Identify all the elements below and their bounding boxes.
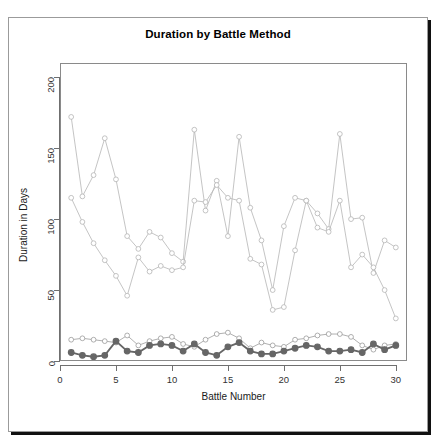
data-point — [359, 350, 365, 356]
data-point — [80, 336, 85, 341]
data-point — [102, 136, 107, 141]
data-point — [203, 337, 208, 342]
data-point — [226, 330, 231, 335]
data-point — [326, 332, 331, 337]
y-tick-label: 150 — [46, 148, 57, 164]
series-method-d-lower-filled — [68, 338, 398, 359]
x-tick-mark — [228, 365, 229, 371]
data-point — [147, 269, 152, 274]
x-tick-mark — [396, 365, 397, 371]
data-point — [292, 345, 298, 351]
data-point — [337, 332, 342, 337]
data-point — [170, 334, 175, 339]
data-point — [180, 348, 186, 354]
data-point — [348, 347, 354, 353]
data-point — [80, 353, 86, 359]
data-point — [315, 225, 320, 230]
data-point — [304, 198, 309, 203]
data-point — [237, 134, 242, 139]
data-point — [203, 208, 208, 213]
x-tick-mark — [284, 365, 285, 371]
data-point — [113, 338, 119, 344]
data-point — [371, 347, 376, 352]
x-tick-label: 15 — [223, 374, 234, 385]
series-line — [71, 185, 396, 318]
data-point — [360, 343, 365, 348]
figure-frame: Duration by Battle Method Duration in Da… — [8, 17, 428, 432]
data-point — [293, 195, 298, 200]
data-point — [382, 288, 387, 293]
x-axis-title: Battle Number — [202, 391, 266, 402]
data-point — [136, 247, 141, 252]
data-point — [68, 350, 74, 356]
data-point — [315, 211, 320, 216]
x-tick-label: 25 — [335, 374, 346, 385]
data-point — [169, 343, 175, 349]
data-point — [281, 224, 286, 229]
data-point — [80, 194, 85, 199]
data-point — [315, 333, 320, 338]
data-point — [371, 341, 377, 347]
data-point — [214, 183, 219, 188]
data-point — [326, 229, 331, 234]
data-point — [226, 234, 231, 239]
y-tick-label: 50 — [46, 290, 57, 301]
data-point — [158, 336, 163, 341]
data-point — [181, 342, 186, 347]
data-point — [102, 353, 108, 359]
data-point — [226, 195, 231, 200]
series-line — [71, 333, 396, 350]
data-point — [136, 350, 142, 356]
data-point — [337, 348, 343, 354]
data-point — [136, 343, 141, 348]
data-point — [181, 265, 186, 270]
data-point — [393, 245, 398, 250]
data-point — [393, 316, 398, 321]
chart-title: Duration by Battle Method — [9, 28, 427, 40]
data-point — [225, 344, 231, 350]
data-point — [91, 337, 96, 342]
data-point — [114, 177, 119, 182]
data-point — [192, 341, 198, 347]
x-tick-mark — [116, 365, 117, 371]
data-point — [136, 255, 141, 260]
data-point — [69, 337, 74, 342]
data-point — [236, 340, 242, 346]
data-point — [270, 343, 275, 348]
data-point — [371, 265, 376, 270]
data-point — [237, 198, 242, 203]
data-point — [91, 241, 96, 246]
data-point — [125, 234, 130, 239]
x-tick-label: 5 — [113, 374, 118, 385]
data-point — [315, 344, 321, 350]
data-point — [170, 268, 175, 273]
x-tick-label: 0 — [57, 374, 62, 385]
data-point — [349, 334, 354, 339]
data-point — [114, 273, 119, 278]
y-tick-label: 100 — [46, 219, 57, 235]
data-point — [360, 252, 365, 257]
data-point — [270, 308, 275, 313]
data-point — [337, 198, 342, 203]
data-point — [214, 353, 220, 359]
data-point — [214, 332, 219, 337]
data-point — [303, 343, 309, 349]
x-axis: Battle Number 051015202530 — [60, 361, 407, 411]
data-point — [158, 235, 163, 240]
data-point — [360, 215, 365, 220]
data-point — [124, 348, 130, 354]
data-point — [247, 348, 253, 354]
y-axis-title: Duration in Days — [18, 188, 29, 262]
data-point — [125, 333, 130, 338]
data-point — [158, 264, 163, 269]
data-point — [91, 173, 96, 178]
data-point — [293, 248, 298, 253]
data-point — [382, 238, 387, 243]
data-point — [270, 351, 276, 357]
data-point — [304, 336, 309, 341]
data-point — [147, 343, 153, 349]
data-point — [248, 256, 253, 261]
data-point — [147, 229, 152, 234]
data-point — [326, 348, 332, 354]
data-point — [192, 127, 197, 132]
